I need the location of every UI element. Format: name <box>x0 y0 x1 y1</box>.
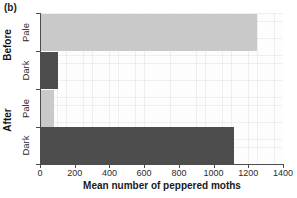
figure-panel-b: (b) Before After Pale Dark Pale Dark 0 2… <box>0 0 297 198</box>
bar-before-dark <box>40 52 58 89</box>
y-axis-tick <box>36 89 40 90</box>
group-label-before: Before <box>2 15 14 75</box>
panel-label: (b) <box>4 2 17 14</box>
category-label-before-pale: Pale <box>20 13 31 53</box>
y-axis-tick <box>36 13 40 14</box>
y-axis-tick <box>36 51 40 52</box>
y-axis-tick <box>36 127 40 128</box>
group-label-after: After <box>2 90 14 150</box>
category-label-after-pale: Pale <box>20 89 31 129</box>
category-label-after-dark: Dark <box>20 126 31 166</box>
x-tick-label-1400: 1400 <box>263 168 297 179</box>
bar-after-pale <box>40 90 54 127</box>
y-axis-line <box>40 13 41 165</box>
bar-before-pale <box>40 14 257 51</box>
bar-after-dark <box>40 127 234 164</box>
category-label-before-dark: Dark <box>20 51 31 91</box>
x-axis-title: Mean number of peppered moths <box>40 180 284 192</box>
plot-area <box>40 13 283 164</box>
